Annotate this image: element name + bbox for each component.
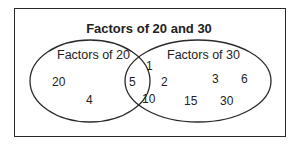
factor-4: 4	[86, 93, 93, 107]
factor-10: 10	[142, 92, 155, 106]
factor-30: 30	[220, 94, 233, 108]
factor-1: 1	[146, 59, 153, 73]
diagram-title: Factors of 20 and 30	[0, 21, 298, 36]
set-20-label: Factors of 20	[57, 48, 130, 62]
factor-3: 3	[212, 72, 219, 86]
factor-6: 6	[241, 72, 248, 86]
factor-2: 2	[161, 75, 168, 89]
factor-5: 5	[129, 75, 136, 89]
factor-15: 15	[184, 94, 197, 108]
set-30-label: Factors of 30	[167, 48, 240, 62]
factor-20: 20	[52, 75, 65, 89]
